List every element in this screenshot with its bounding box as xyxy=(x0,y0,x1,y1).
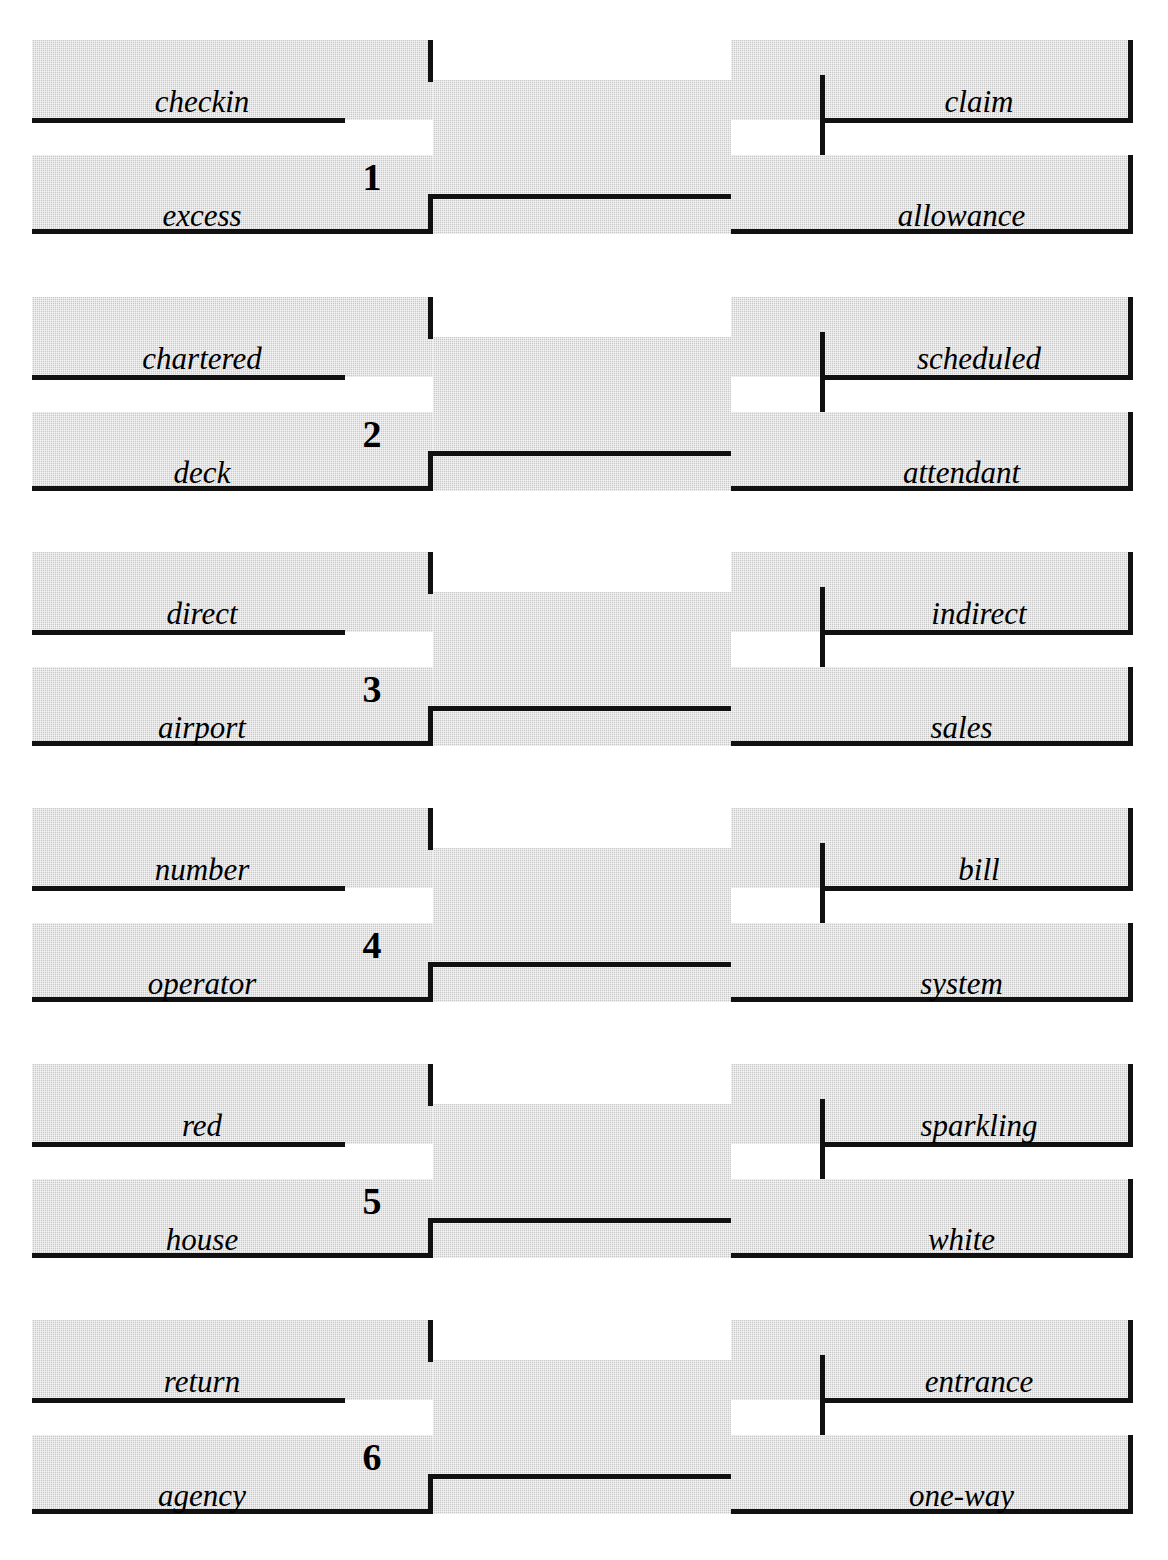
word-top-right: bill xyxy=(825,854,1133,885)
rule-edge-top-left xyxy=(428,1320,433,1362)
rule-edge-top-left xyxy=(428,552,433,594)
rule-edge-bottom-left xyxy=(428,1474,433,1514)
word-bottom-left: agency xyxy=(32,1480,372,1511)
puzzle-sheet: checkinexcessclaimallowance1chartereddec… xyxy=(0,0,1168,1560)
word-bottom-right: white xyxy=(790,1224,1133,1255)
word-bottom-right: sales xyxy=(790,712,1133,743)
word-bottom-left: excess xyxy=(32,200,372,231)
rule-edge-bottom-left xyxy=(428,1218,433,1258)
rule-edge-top-left xyxy=(428,1064,433,1106)
rule-edge-top-left xyxy=(428,40,433,82)
row-number: 6 xyxy=(352,1438,392,1476)
center-bridge xyxy=(433,1360,731,1514)
puzzle-row: numberoperatorbillsystem4 xyxy=(0,808,1168,1040)
rule-bridge-bottom xyxy=(433,194,731,199)
word-bottom-left: operator xyxy=(32,968,372,999)
center-bridge xyxy=(433,592,731,746)
word-top-right: sparkling xyxy=(825,1110,1133,1141)
word-bottom-left: deck xyxy=(32,457,372,488)
center-bridge xyxy=(433,80,731,234)
word-bottom-left: house xyxy=(32,1224,372,1255)
rule-bridge-bottom xyxy=(433,706,731,711)
word-top-right: indirect xyxy=(825,598,1133,629)
row-number: 3 xyxy=(352,670,392,708)
word-top-left: red xyxy=(32,1110,372,1141)
word-top-right: entrance xyxy=(825,1366,1133,1397)
rule-edge-bottom-left xyxy=(428,451,433,491)
rule-bridge-bottom xyxy=(433,1218,731,1223)
word-bottom-left: airport xyxy=(32,712,372,743)
row-number: 5 xyxy=(352,1182,392,1220)
word-top-right: claim xyxy=(825,86,1133,117)
puzzle-row: returnagencyentranceone-way6 xyxy=(0,1320,1168,1552)
rule-bridge-bottom xyxy=(433,962,731,967)
word-top-left: number xyxy=(32,854,372,885)
rule-bridge-bottom xyxy=(433,451,731,456)
rule-edge-bottom-left xyxy=(428,706,433,746)
puzzle-row: redhousesparklingwhite5 xyxy=(0,1064,1168,1296)
row-number: 1 xyxy=(352,158,392,196)
row-number: 4 xyxy=(352,926,392,964)
rule-edge-bottom-left xyxy=(428,962,433,1002)
puzzle-row: chartereddeckscheduledattendant2 xyxy=(0,297,1168,529)
word-bottom-right: system xyxy=(790,968,1133,999)
center-bridge xyxy=(433,848,731,1002)
rule-edge-top-left xyxy=(428,808,433,850)
word-bottom-right: attendant xyxy=(790,457,1133,488)
word-top-left: chartered xyxy=(32,343,372,374)
rule-edge-bottom-left xyxy=(428,194,433,234)
word-bottom-right: one-way xyxy=(790,1480,1133,1511)
word-top-left: direct xyxy=(32,598,372,629)
puzzle-row: directairportindirectsales3 xyxy=(0,552,1168,784)
center-bridge xyxy=(433,1104,731,1258)
word-top-right: scheduled xyxy=(825,343,1133,374)
word-bottom-right: allowance xyxy=(790,200,1133,231)
word-top-left: checkin xyxy=(32,86,372,117)
center-bridge xyxy=(433,337,731,491)
rule-bridge-bottom xyxy=(433,1474,731,1479)
word-top-left: return xyxy=(32,1366,372,1397)
puzzle-row: checkinexcessclaimallowance1 xyxy=(0,40,1168,272)
rule-edge-top-left xyxy=(428,297,433,339)
row-number: 2 xyxy=(352,415,392,453)
